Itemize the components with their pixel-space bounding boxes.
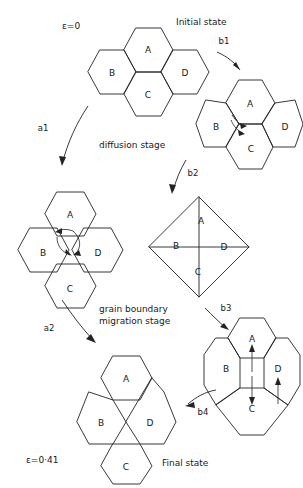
- b2-grain-label-C: C: [195, 267, 201, 277]
- grain-deformation-diagram: A B C D ε=0 Initial state b1 a1 diffusio…: [0, 0, 303, 488]
- b1-grain-label-A: A: [247, 99, 254, 109]
- transition-label-a1: a1: [38, 123, 49, 133]
- b3-state-cluster: A B C D: [204, 318, 300, 435]
- b1-grain-label-B: B: [213, 122, 219, 132]
- a1-grain-label-A: A: [67, 210, 74, 220]
- final-grain-cell-D: [126, 378, 176, 444]
- migration-stage-label-line1: grain boundary: [99, 304, 169, 314]
- b3-grain-label-C: C: [249, 404, 255, 414]
- final-strain-label: ε=0·41: [26, 455, 58, 465]
- final-state-caption: Final state: [162, 458, 209, 468]
- grain-label-B: B: [109, 68, 115, 78]
- final-grain-label-A: A: [123, 374, 130, 384]
- grain-label-C: C: [145, 90, 151, 100]
- initial-state-caption: Initial state: [176, 17, 227, 27]
- final-grain-label-C: C: [123, 462, 129, 472]
- a1-grain-label-C: C: [67, 284, 73, 294]
- transition-arrow-b4: b4: [185, 390, 216, 417]
- b1-grain-label-C: C: [248, 144, 254, 154]
- b2-grain-label-A: A: [198, 216, 205, 226]
- a1-state-cluster: A B C D: [18, 192, 123, 308]
- b3-grain-label-A: A: [249, 334, 256, 344]
- b3-migration-arrows: [249, 344, 281, 405]
- transition-arrow-a1: a1: [38, 106, 88, 166]
- transition-label-a2: a2: [44, 323, 55, 333]
- migration-stage-label-line2: migration stage: [99, 316, 171, 326]
- transition-label-b1: b1: [219, 36, 230, 46]
- final-grain-label-D: D: [147, 418, 154, 428]
- transition-label-b3: b3: [221, 303, 232, 313]
- a1-grain-label-B: B: [40, 248, 46, 258]
- b2-grain-label-D: D: [221, 242, 228, 252]
- initial-strain-label: ε=0: [62, 21, 80, 31]
- b3-grain-cell-D: [264, 338, 300, 405]
- final-grain-label-B: B: [98, 418, 104, 428]
- b1-switch-arrows: [231, 115, 247, 136]
- b1-grain-label-D: D: [282, 122, 289, 132]
- a1-grain-label-D: D: [95, 248, 102, 258]
- transition-arrow-b3: b3: [205, 303, 231, 330]
- initial-state-cluster: A B C D: [88, 28, 209, 116]
- a1-diffusion-arrows: [55, 228, 81, 256]
- transition-arrow-b1: b1: [217, 36, 240, 70]
- diffusion-stage-label: diffusion stage: [99, 140, 166, 150]
- transition-label-b2: b2: [188, 168, 199, 178]
- b2-grain-label-B: B: [173, 241, 179, 251]
- b2-state-cluster: A B C D: [149, 197, 249, 297]
- b3-grain-label-D: D: [275, 364, 282, 374]
- b1-state-cluster: A B C D: [196, 80, 303, 169]
- transition-arrow-b2: b2: [169, 160, 198, 194]
- b3-grain-label-B: B: [223, 364, 229, 374]
- transition-arrow-a2: a2: [44, 300, 96, 343]
- transition-label-b4: b4: [198, 407, 209, 417]
- grain-label-A: A: [145, 45, 152, 55]
- figure-canvas: A B C D ε=0 Initial state b1 a1 diffusio…: [0, 0, 303, 488]
- grain-label-D: D: [182, 68, 189, 78]
